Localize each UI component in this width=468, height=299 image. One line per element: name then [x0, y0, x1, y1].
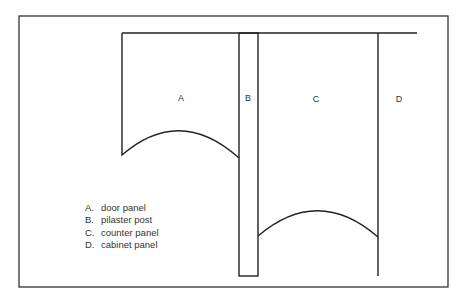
- legend-label: counter panel: [101, 227, 159, 239]
- legend-label: pilaster post: [101, 214, 152, 226]
- cabinet-diagram: [0, 0, 468, 299]
- region-label-d: D: [396, 94, 403, 104]
- legend-item: C. counter panel: [85, 227, 159, 239]
- region-label-a: A: [178, 93, 184, 103]
- legend-key: B.: [85, 214, 101, 226]
- region-label-c: C: [313, 94, 320, 104]
- legend-label: door panel: [101, 202, 146, 214]
- pilaster-post-outline: [239, 33, 258, 276]
- legend-item: D. cabinet panel: [85, 239, 159, 251]
- legend-key: A.: [85, 202, 101, 214]
- legend-label: cabinet panel: [101, 239, 158, 251]
- legend-item: B. pilaster post: [85, 214, 159, 226]
- legend: A. door panel B. pilaster post C. counte…: [85, 202, 159, 252]
- legend-key: D.: [85, 239, 101, 251]
- legend-item: A. door panel: [85, 202, 159, 214]
- legend-key: C.: [85, 227, 101, 239]
- region-label-b: B: [245, 93, 251, 103]
- diagram-frame: [19, 16, 448, 287]
- counter-panel-arc: [258, 211, 378, 237]
